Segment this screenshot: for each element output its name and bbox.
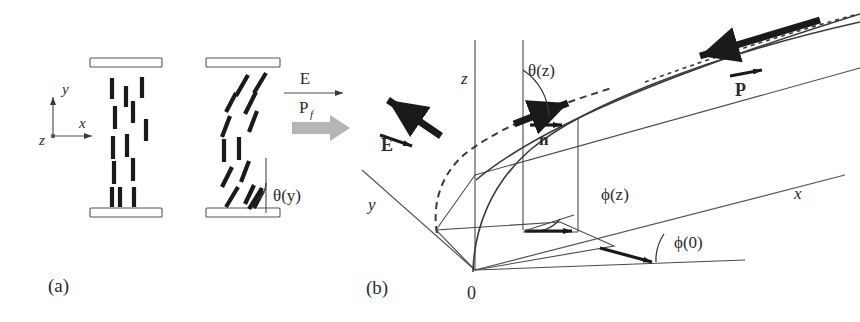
p-vector-label-group: P xyxy=(730,70,762,100)
phi-z-label: ϕ(z) xyxy=(601,185,629,204)
liquid-crystal-director-figure: y x z xyxy=(0,0,860,322)
axis-label-y-panel-b: y xyxy=(366,195,376,214)
panel-b: z y x 0 xyxy=(362,14,860,303)
base-plane xyxy=(436,175,745,270)
x-axis-line xyxy=(475,175,845,270)
y-axis-line xyxy=(362,170,475,270)
field-annotation-panel-a: E P f xyxy=(284,69,350,141)
phi-0-label: ϕ(0) xyxy=(674,233,703,252)
origin-label: 0 xyxy=(467,283,476,303)
base-plane-edge-right xyxy=(475,260,745,270)
rods-deformed xyxy=(222,73,266,208)
theta-z-label: θ(z) xyxy=(528,61,555,80)
undeformed-cell xyxy=(90,58,162,217)
e-field-vector-group: E xyxy=(380,100,441,155)
axis-system-panel-b: z y x 0 xyxy=(362,40,845,303)
axis-label-z: z xyxy=(38,132,45,148)
field-label-P: P xyxy=(299,98,308,117)
axis-label-z-panel-b: z xyxy=(460,69,468,88)
top-plate-right xyxy=(206,58,280,67)
axis-label-y: y xyxy=(60,81,69,97)
top-plate-left xyxy=(90,58,162,67)
phi-0-arc xyxy=(656,234,664,262)
e-field-arrow-thick xyxy=(388,100,441,136)
gray-direction-arrow xyxy=(292,115,350,141)
rods-undeformed xyxy=(112,77,146,207)
director-curve-dashed-projection xyxy=(436,88,612,233)
polarization-arrow-thick xyxy=(700,20,820,56)
polarization-vector-label: P xyxy=(735,80,746,100)
upper-plane-edge xyxy=(475,68,860,175)
z-axis-origin-dot xyxy=(51,134,55,138)
p-vector-arrow xyxy=(730,70,762,76)
panel-b-caption: (b) xyxy=(366,277,388,299)
director-segment-n xyxy=(514,103,568,124)
field-vector-label: E xyxy=(381,135,393,155)
phi-0-marker xyxy=(600,234,664,262)
phi-0-arrow xyxy=(600,248,652,262)
bottom-plate-right xyxy=(206,208,280,217)
bottom-plate-left xyxy=(90,208,162,217)
panel-a: y x z xyxy=(38,58,350,297)
axis-label-x: x xyxy=(78,115,86,131)
deformed-cell: θ(y) xyxy=(206,58,301,217)
director-vector-label: n xyxy=(539,130,549,149)
theta-y-label: θ(y) xyxy=(273,186,301,205)
field-label-P-subscript: f xyxy=(310,108,315,120)
director-curve-solid xyxy=(473,22,860,272)
base-plane-outline xyxy=(436,222,614,270)
panel-a-caption: (a) xyxy=(48,275,69,297)
axis-label-x-panel-b: x xyxy=(793,184,802,203)
director-curve-outer xyxy=(476,14,860,180)
field-label-E: E xyxy=(300,69,310,88)
axis-triad-panel-a: y x z xyxy=(38,81,92,148)
figure-root: y x z xyxy=(0,0,860,322)
